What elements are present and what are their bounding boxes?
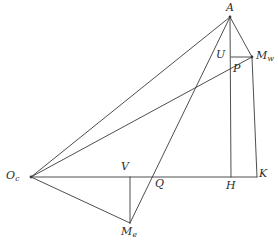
label-Q: Q [155, 178, 164, 190]
diagram-canvas [0, 0, 278, 243]
label-V: V [121, 161, 129, 173]
label-A: A [226, 2, 234, 14]
vertex-dot-Mw [251, 56, 254, 59]
side-Mw-K [252, 57, 257, 177]
label-Me: Me [121, 226, 137, 238]
vertex-dot-A [229, 16, 232, 19]
side-Oc-A [31, 17, 230, 177]
side-A-Mw [230, 17, 252, 57]
label-U: U [216, 49, 225, 61]
line-Oc-Mw [31, 57, 252, 177]
label-H: H [226, 180, 236, 192]
vertex-dot-layer [30, 16, 254, 179]
geometry-diagram: A Mw U P Oc V Q H K Me [0, 0, 278, 243]
label-Mw: Mw [256, 50, 274, 62]
cevian-A-Me [130, 17, 230, 223]
vertex-dot-Oc [30, 176, 33, 179]
label-P: P [233, 63, 241, 75]
side-Oc-Me [31, 177, 130, 223]
label-Oc: Oc [6, 170, 19, 182]
altitude-A-H [230, 17, 231, 177]
label-K: K [259, 168, 267, 180]
